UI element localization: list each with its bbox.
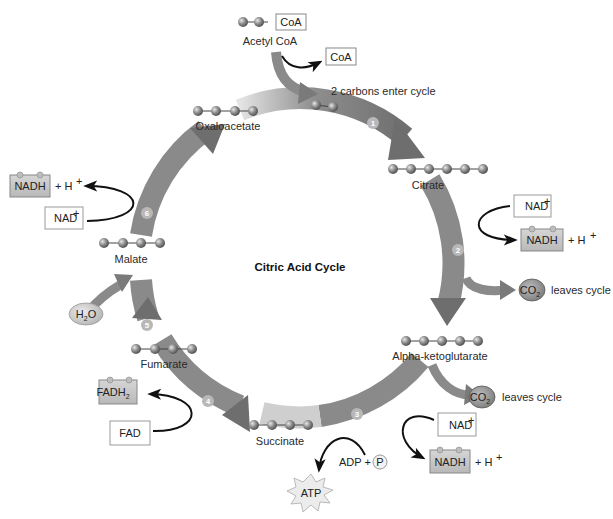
diagram-title: Citric Acid Cycle bbox=[255, 261, 346, 273]
svg-text:+: + bbox=[544, 195, 550, 207]
step5-water-addition: H2O bbox=[69, 274, 133, 325]
step4-fad-reduction: FADH2 FAD bbox=[96, 377, 191, 445]
svg-text:ADP +: ADP + bbox=[339, 456, 371, 468]
step-badge-6: 6 bbox=[141, 207, 153, 219]
step3-nad-reduction: NAD + NADH + H + bbox=[403, 413, 503, 473]
intermediate-malate: Malate bbox=[99, 238, 165, 265]
svg-text:FAD: FAD bbox=[119, 427, 140, 439]
svg-text:ATP: ATP bbox=[301, 487, 322, 499]
arrowhead-step2 bbox=[430, 298, 466, 326]
enter-note: 2 carbons enter cycle bbox=[331, 85, 436, 97]
step-badge-5: 5 bbox=[141, 319, 153, 331]
svg-text:leaves cycle: leaves cycle bbox=[502, 391, 562, 403]
svg-text:1: 1 bbox=[371, 119, 376, 128]
svg-text:2: 2 bbox=[456, 246, 461, 255]
citric-acid-cycle-diagram: 1 2 3 4 5 6 Citric Acid Cycle CoA Acetyl… bbox=[0, 0, 613, 519]
svg-text:Oxaloacetate: Oxaloacetate bbox=[196, 120, 261, 132]
svg-text:Alpha-ketoglutarate: Alpha-ketoglutarate bbox=[392, 350, 487, 362]
svg-text:Malate: Malate bbox=[114, 253, 147, 265]
svg-text:leaves cycle: leaves cycle bbox=[551, 284, 611, 296]
step-badge-2: 2 bbox=[452, 244, 464, 256]
step2-nad-reduction: NAD + NADH + H + bbox=[479, 195, 597, 251]
svg-text:+ H: + H bbox=[568, 234, 585, 246]
step3-atp-synthesis: ADP + P ATP bbox=[287, 438, 387, 512]
svg-text:+: + bbox=[590, 229, 596, 241]
svg-text:Citrate: Citrate bbox=[412, 179, 444, 191]
svg-text:Succinate: Succinate bbox=[256, 435, 304, 447]
intermediate-oxaloacetate: Oxaloacetate bbox=[193, 106, 260, 132]
svg-text:CoA: CoA bbox=[280, 16, 302, 28]
step3-co2-release: CO2 leaves cycle bbox=[432, 365, 562, 408]
svg-text:NADH: NADH bbox=[14, 180, 45, 192]
step-badge-3: 3 bbox=[351, 408, 363, 420]
coa-release-arrow bbox=[282, 56, 320, 67]
svg-text:+: + bbox=[76, 175, 82, 187]
svg-text:+ H: + H bbox=[55, 180, 72, 192]
svg-text:+: + bbox=[73, 207, 79, 219]
svg-text:NADH: NADH bbox=[526, 234, 557, 246]
svg-text:6: 6 bbox=[145, 209, 150, 218]
svg-text:+: + bbox=[496, 451, 502, 463]
step6-nad-reduction: NADH + H + NAD + bbox=[10, 172, 133, 229]
svg-text:NADH: NADH bbox=[434, 456, 465, 468]
svg-text:4: 4 bbox=[206, 397, 211, 406]
acetyl-coa-label: Acetyl CoA bbox=[243, 35, 298, 47]
svg-text:CoA: CoA bbox=[330, 51, 352, 63]
svg-text:+: + bbox=[468, 414, 474, 426]
step-badge-4: 4 bbox=[202, 395, 214, 407]
step2-co2-release: CO2 leaves cycle bbox=[466, 278, 611, 301]
carbon-ball bbox=[238, 17, 248, 27]
svg-text:FADH2: FADH2 bbox=[96, 386, 129, 400]
carbon-ball bbox=[254, 17, 264, 27]
svg-text:5: 5 bbox=[145, 321, 150, 330]
step-badge-1: 1 bbox=[367, 117, 379, 129]
svg-text:3: 3 bbox=[355, 410, 360, 419]
svg-text:Fumarate: Fumarate bbox=[140, 358, 187, 370]
svg-text:+ H: + H bbox=[475, 456, 492, 468]
acetyl-coa: CoA Acetyl CoA bbox=[238, 14, 306, 47]
intermediate-alpha-ketoglutarate: Alpha-ketoglutarate bbox=[392, 336, 487, 362]
svg-text:P: P bbox=[376, 456, 383, 468]
